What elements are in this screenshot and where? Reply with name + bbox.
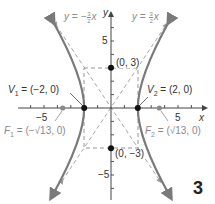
vertex-v2-point xyxy=(135,105,141,111)
focus-f1-label: F1 = (−√13, 0) xyxy=(4,126,66,138)
point-0-neg3-label: (0, −3) xyxy=(114,149,145,159)
hyperbola-figure: y = −32x y = 32x y x −5 5 5 −5 V1 = (−2,… xyxy=(0,0,215,204)
v2-leader xyxy=(139,97,148,106)
y-tick-label-neg5: −5 xyxy=(98,170,109,180)
f2-leader xyxy=(161,111,168,121)
x-axis-label: x xyxy=(199,113,204,123)
v1-leader xyxy=(70,93,83,106)
point-0-3 xyxy=(108,65,114,71)
y-axis-label: y xyxy=(103,8,108,18)
f1-leader xyxy=(55,111,62,121)
vertex-v2-label: V2 = (2, 0) xyxy=(147,85,192,97)
point-0-3-label: (0, 3) xyxy=(115,58,140,68)
vertex-v1-point xyxy=(81,105,87,111)
focus-f2-point xyxy=(157,105,162,110)
x-tick-label-5: 5 xyxy=(175,113,181,123)
vertex-v1-label: V1 = (−2, 0) xyxy=(8,85,59,97)
asymptote-negative-label: y = −32x xyxy=(64,11,97,24)
figure-number: 3 xyxy=(193,178,203,199)
y-tick-label-5: 5 xyxy=(102,36,108,46)
asymptote-positive-label: y = 32x xyxy=(132,11,159,24)
focus-f2-label: F2 = (√13, 0) xyxy=(145,126,201,138)
focus-f1-point xyxy=(60,105,65,110)
x-tick-label-neg5: −5 xyxy=(36,113,47,123)
